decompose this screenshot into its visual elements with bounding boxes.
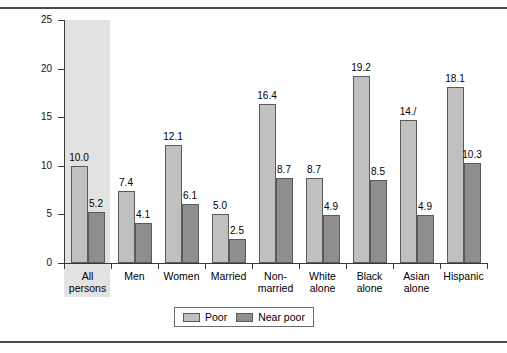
legend-label-near-poor: Near poor <box>258 312 305 323</box>
y-tick-label-5: 5 <box>12 209 52 219</box>
bar-poor-5 <box>306 178 323 263</box>
bar-value-poor-1: 7.4 <box>119 178 133 188</box>
bar-value-near-poor-2: 6.1 <box>183 191 197 201</box>
bar-poor-8 <box>447 87 464 263</box>
bar-value-poor-7: 14./ <box>400 107 417 117</box>
bar-value-near-poor-6: 8.5 <box>371 167 385 177</box>
category-label-8: Hispanic <box>443 270 483 282</box>
bar-poor-4 <box>259 104 276 263</box>
bar-value-poor-5: 8.7 <box>307 165 321 175</box>
category-label-6: Blackalone <box>357 270 383 294</box>
y-tick-15 <box>58 117 64 118</box>
y-tick-label-25: 25 <box>12 15 52 25</box>
legend-swatch-near-poor <box>236 313 253 322</box>
x-tick-4 <box>252 264 253 269</box>
y-tick-label-10: 10 <box>12 161 52 171</box>
bar-value-near-poor-7: 4.9 <box>418 202 432 212</box>
category-label-7: Asianalone <box>403 270 429 294</box>
category-label-1: Men <box>124 270 144 282</box>
bar-near-poor-5 <box>323 215 340 263</box>
bar-value-near-poor-4: 8.7 <box>277 165 291 175</box>
chart-figure: Percent 0510152025 10.05.27.44.112.16.15… <box>0 0 507 353</box>
bar-poor-3 <box>212 214 229 263</box>
legend-swatch-poor <box>183 313 200 322</box>
bar-value-poor-3: 5.0 <box>213 201 227 211</box>
bar-value-near-poor-0: 5.2 <box>89 199 103 209</box>
bar-poor-1 <box>118 191 135 263</box>
bar-near-poor-4 <box>276 178 293 263</box>
y-axis-line <box>64 20 65 264</box>
y-tick-5 <box>58 214 64 215</box>
category-label-2: Women <box>164 270 200 282</box>
category-label-4: Non-married <box>258 270 294 294</box>
category-label-5: Whitealone <box>309 270 336 294</box>
chart-legend: Poor Near poor <box>174 307 314 327</box>
legend-label-poor: Poor <box>205 312 227 323</box>
bar-near-poor-0 <box>88 212 105 263</box>
category-label-3: Married <box>211 270 247 282</box>
bar-poor-2 <box>165 145 182 263</box>
bar-poor-0 <box>71 166 88 263</box>
bar-value-near-poor-5: 4.9 <box>324 202 338 212</box>
bar-near-poor-1 <box>135 223 152 263</box>
bottom-rule <box>0 341 507 343</box>
x-tick-6 <box>346 264 347 269</box>
x-tick-9 <box>487 264 488 269</box>
bar-poor-7 <box>400 120 417 263</box>
legend-item-near-poor: Near poor <box>236 312 305 323</box>
x-tick-5 <box>299 264 300 269</box>
y-tick-10 <box>58 166 64 167</box>
x-tick-1 <box>111 264 112 269</box>
x-tick-0 <box>64 264 65 269</box>
y-tick-label-15: 15 <box>12 112 52 122</box>
x-tick-8 <box>440 264 441 269</box>
bar-value-poor-0: 10.0 <box>69 153 88 163</box>
x-tick-2 <box>158 264 159 269</box>
bar-value-near-poor-1: 4.1 <box>136 210 150 220</box>
y-tick-label-0: 0 <box>12 258 52 268</box>
bar-value-poor-6: 19.2 <box>351 63 370 73</box>
bar-near-poor-3 <box>229 239 246 263</box>
bar-value-poor-4: 16.4 <box>257 91 276 101</box>
bar-poor-6 <box>353 76 370 263</box>
x-tick-7 <box>393 264 394 269</box>
bar-near-poor-7 <box>417 215 434 263</box>
category-label-0: Allpersons <box>69 270 106 294</box>
top-rule <box>0 7 507 9</box>
bar-near-poor-8 <box>464 163 481 263</box>
y-tick-label-20: 20 <box>12 64 52 74</box>
bar-near-poor-2 <box>182 204 199 263</box>
bar-near-poor-6 <box>370 180 387 263</box>
bar-value-near-poor-8: 10.3 <box>462 150 481 160</box>
bar-value-near-poor-3: 2.5 <box>230 226 244 236</box>
y-tick-20 <box>58 69 64 70</box>
x-tick-3 <box>205 264 206 269</box>
bar-value-poor-8: 18.1 <box>445 74 464 84</box>
y-tick-25 <box>58 20 64 21</box>
x-axis-line <box>64 263 488 264</box>
bar-value-poor-2: 12.1 <box>163 132 182 142</box>
legend-item-poor: Poor <box>183 312 227 323</box>
